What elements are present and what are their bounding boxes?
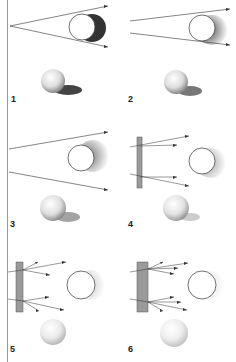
panel-4: 4 xyxy=(118,120,236,240)
panel-label: 6 xyxy=(128,344,133,354)
panel-label: 2 xyxy=(128,94,133,104)
diffuser-panel xyxy=(16,262,23,312)
ray-diagram-4 xyxy=(118,120,236,240)
ray-diagram-2 xyxy=(118,0,236,120)
panel-1: 1 xyxy=(0,0,118,120)
panel-label: 4 xyxy=(128,219,133,229)
panel-label: 5 xyxy=(10,344,15,354)
ray-diagram-1 xyxy=(0,0,118,120)
ray-diagram-3 xyxy=(0,120,118,240)
panel-label: 1 xyxy=(11,94,16,104)
ray-diagram-6 xyxy=(118,240,236,362)
panel-label: 3 xyxy=(10,219,15,229)
panel-5: 5 xyxy=(0,240,118,360)
ray-diagram-5 xyxy=(0,240,118,362)
panel-6: 6 xyxy=(118,240,236,360)
panel-3: 3 xyxy=(0,120,118,240)
panel-2: 2 xyxy=(118,0,236,120)
